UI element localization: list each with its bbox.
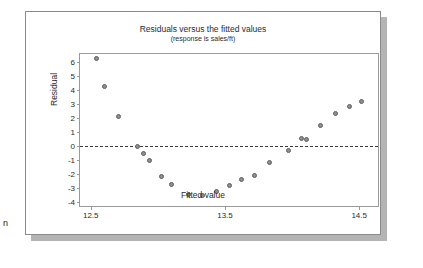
data-point xyxy=(252,173,257,178)
x-axis-label: Fitted value xyxy=(26,190,380,200)
y-axis-tick-mark xyxy=(77,146,80,147)
data-point xyxy=(116,114,121,119)
chart-subtitle: (response is sales/ft) xyxy=(26,35,380,42)
data-point xyxy=(359,99,364,104)
y-axis-tick-mark xyxy=(77,104,80,105)
data-point xyxy=(169,182,174,187)
x-axis-tick-label: 13.5 xyxy=(217,211,233,220)
data-point xyxy=(318,123,323,128)
data-point xyxy=(239,177,244,182)
x-axis-tick-mark xyxy=(225,206,226,210)
data-point xyxy=(159,174,164,179)
y-axis-tick-mark xyxy=(77,132,80,133)
data-point xyxy=(267,160,272,165)
page-text-fragment: n xyxy=(3,218,8,228)
y-axis-tick-mark xyxy=(77,118,80,119)
data-point xyxy=(94,56,99,61)
data-point xyxy=(304,137,309,142)
x-axis-tick-label: 14.5 xyxy=(351,211,367,220)
y-axis-tick-mark xyxy=(77,160,80,161)
x-axis-tick-label: 12.5 xyxy=(83,211,99,220)
data-point xyxy=(286,148,291,153)
data-point xyxy=(102,84,107,89)
zero-reference-line xyxy=(80,146,378,147)
data-point xyxy=(347,104,352,109)
plot-area: Residual 6543210-1-2-3-412.513.514.5 xyxy=(79,53,379,207)
y-axis-tick-mark xyxy=(77,188,80,189)
data-point xyxy=(333,111,338,116)
y-axis-tick-mark xyxy=(77,90,80,91)
screenshot-root: n Residuals versus the fitted values (re… xyxy=(0,0,423,268)
x-axis-tick-mark xyxy=(91,206,92,210)
data-point xyxy=(299,136,304,141)
data-point xyxy=(141,151,146,156)
y-axis-tick-mark xyxy=(77,62,80,63)
y-axis-tick-mark xyxy=(77,76,80,77)
chart-title: Residuals versus the fitted values xyxy=(26,24,380,34)
x-axis-tick-mark xyxy=(359,206,360,210)
data-point xyxy=(135,144,140,149)
data-point xyxy=(147,158,152,163)
residual-scatter-chart: Residuals versus the fitted values (resp… xyxy=(26,12,380,234)
data-point xyxy=(227,183,232,188)
y-axis-tick-mark xyxy=(77,174,80,175)
y-axis-tick-mark xyxy=(77,202,80,203)
figure-card: Residuals versus the fitted values (resp… xyxy=(25,11,381,235)
